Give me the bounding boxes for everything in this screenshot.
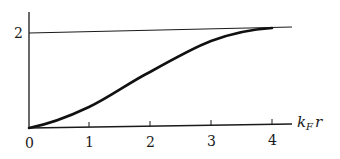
xtick-label-3: 3 bbox=[207, 133, 216, 149]
xtick-label-4: 4 bbox=[268, 132, 277, 148]
xtick-label-2: 2 bbox=[146, 134, 155, 150]
x-axis-label: kFr bbox=[297, 113, 323, 132]
x-axis-label-k: k bbox=[297, 113, 306, 131]
data-curve bbox=[29, 28, 272, 128]
plot-canvas: 2 0 1 2 3 4 kFr bbox=[0, 0, 340, 159]
xtick-label-1: 1 bbox=[85, 134, 94, 150]
xtick-label-0: 0 bbox=[25, 135, 34, 151]
x-axis-label-sub: F bbox=[305, 121, 314, 132]
x-axis-label-r: r bbox=[315, 113, 323, 131]
ytick-label-2: 2 bbox=[14, 25, 23, 41]
x-axis bbox=[29, 124, 292, 128]
